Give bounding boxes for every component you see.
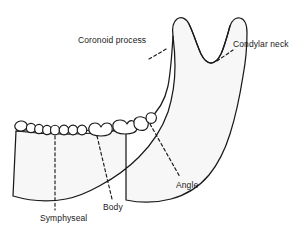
tooth-premolar-1	[59, 125, 69, 135]
label-coronoid-process: Coronoid process	[78, 36, 146, 45]
label-condylar-neck: Condylar neck	[233, 40, 289, 49]
tooth-premolar-2	[68, 125, 78, 135]
mandible-diagram: Coronoid process Condylar neck Angle Bod…	[0, 0, 305, 230]
mandible-outline	[13, 18, 247, 203]
anterior-ramus-border	[134, 36, 173, 126]
tooth-canine	[51, 125, 60, 135]
tooth-molar-4	[146, 113, 156, 124]
label-body: Body	[103, 203, 123, 212]
tooth-premolar-3	[77, 125, 87, 135]
tooth-incisor-1	[14, 120, 28, 132]
tooth-molar-1	[89, 123, 112, 136]
leader-coronoid-process	[149, 48, 168, 59]
teeth-row	[14, 113, 156, 136]
mandible-illustration	[0, 0, 305, 230]
label-angle: Angle	[176, 181, 198, 190]
tooth-incisor-3	[35, 124, 44, 133]
label-symphyseal: Symphyseal	[40, 214, 87, 223]
